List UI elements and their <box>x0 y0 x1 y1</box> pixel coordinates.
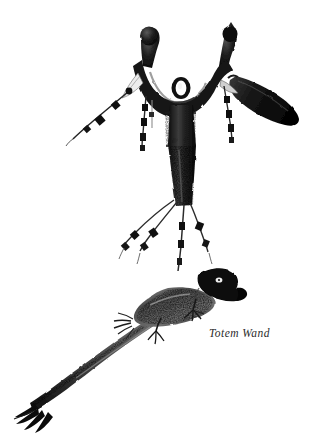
left-prong <box>140 27 160 69</box>
right-bead-string <box>224 86 234 143</box>
bird-eye <box>216 277 223 282</box>
tail-feather-tips <box>14 404 53 433</box>
eye-oval <box>172 77 191 99</box>
tail-highlight <box>76 327 150 378</box>
illustration-page: Totem Wand <box>0 0 325 445</box>
left-bead-string <box>66 88 132 146</box>
bottom-fringe <box>119 200 212 271</box>
bird-body-texture <box>137 289 213 324</box>
figure-caption: Totem Wand <box>209 328 270 340</box>
right-feather <box>228 76 299 126</box>
totem-wand-illustration <box>0 0 325 445</box>
forked-wand <box>66 22 299 271</box>
center-bead-string <box>140 96 148 151</box>
bird-effigy <box>14 268 247 433</box>
right-prong <box>219 22 238 69</box>
